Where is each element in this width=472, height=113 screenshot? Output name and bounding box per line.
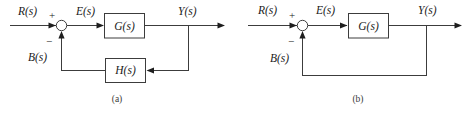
arrowhead-error-a: [97, 22, 105, 28]
arrowhead-output-a: [218, 22, 226, 28]
label-input-b: R(s): [257, 4, 277, 17]
arrowhead-feedback-a: [58, 31, 64, 39]
summing-junction-b: [297, 20, 307, 30]
diagram-b: G(s) R(s) + E(s) Y(s) − B(s) (b): [248, 4, 462, 105]
label-feedback-b: B(s): [270, 52, 289, 65]
label-input-a: R(s): [17, 5, 37, 18]
label-output-a: Y(s): [178, 5, 197, 18]
figure-container: G(s) H(s) R(s) + E(s) Y(s) − B(s): [0, 0, 472, 113]
arrowhead-feedback-in-a: [147, 67, 155, 73]
label-plus-b: +: [289, 9, 295, 21]
label-error-b: E(s): [315, 4, 335, 17]
arrowhead-error-b: [340, 22, 348, 28]
label-plus-a: +: [49, 9, 55, 21]
arrowhead-output-b: [455, 22, 463, 28]
arrowhead-input-b: [290, 22, 298, 28]
summing-junction-a: [56, 20, 66, 30]
label-output-b: Y(s): [418, 4, 437, 17]
arrowhead-input-a: [49, 22, 57, 28]
label-minus-a: −: [46, 35, 52, 47]
label-error-a: E(s): [75, 5, 95, 18]
caption-b: (b): [352, 94, 363, 105]
arrowhead-feedback-b: [299, 31, 305, 39]
diagram-a: G(s) H(s) R(s) + E(s) Y(s) − B(s): [10, 5, 225, 105]
block-g-b-label: G(s): [358, 20, 379, 33]
block-h-a-label: H(s): [114, 64, 136, 77]
label-feedback-a: B(s): [28, 51, 47, 64]
caption-a: (a): [112, 94, 123, 105]
block-diagram-figure: G(s) H(s) R(s) + E(s) Y(s) − B(s): [0, 0, 472, 113]
label-minus-b: −: [288, 35, 294, 47]
block-g-a-label: G(s): [114, 20, 135, 33]
